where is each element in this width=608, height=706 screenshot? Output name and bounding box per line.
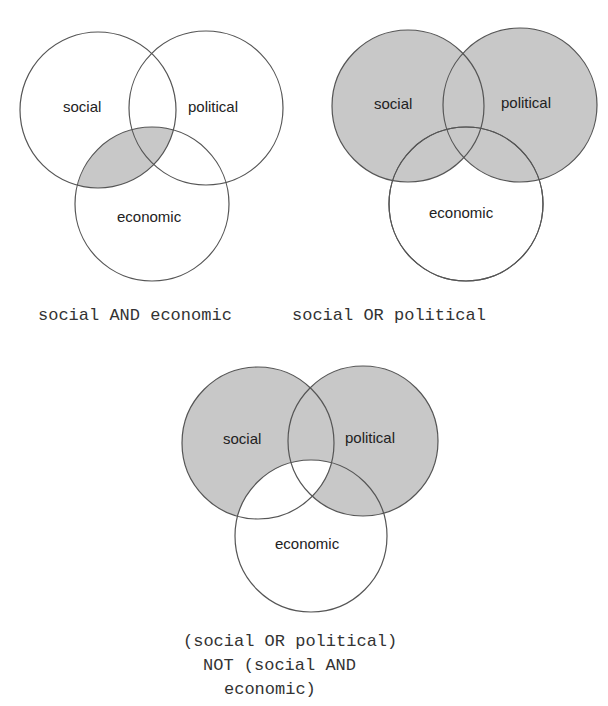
set-label-social: social — [374, 95, 412, 112]
shaded-region-social-and-economic — [75, 127, 229, 281]
set-label-economic: economic — [275, 535, 340, 552]
diagram-caption: social AND economic — [38, 306, 232, 325]
venn-diagram-and: social political economic social AND eco… — [20, 31, 283, 325]
set-label-political: political — [501, 94, 551, 111]
set-label-political: political — [345, 429, 395, 446]
diagram-caption-line-1: (social OR political) — [183, 632, 397, 651]
venn-diagram-or-not-and: social political economic (social OR pol… — [182, 366, 438, 699]
venn-diagram-or: social political economic social OR poli… — [292, 28, 597, 325]
diagram-caption-line-3: economic) — [224, 680, 316, 699]
set-label-economic: economic — [429, 204, 494, 221]
shaded-region-or-minus-and — [182, 366, 438, 519]
set-label-economic: economic — [117, 208, 182, 225]
diagram-caption: social OR political — [292, 306, 486, 325]
diagram-caption-line-2: NOT (social AND — [203, 656, 356, 675]
set-label-social: social — [223, 430, 261, 447]
set-label-social: social — [63, 98, 101, 115]
venn-diagrams-figure: social political economic social AND eco… — [0, 0, 608, 706]
set-label-political: political — [188, 98, 238, 115]
